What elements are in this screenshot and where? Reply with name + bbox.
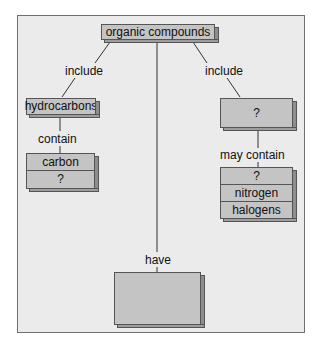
node-nitrogen: nitrogen: [221, 185, 292, 202]
box-bottom: [223, 218, 297, 222]
node-may-contain-list: ? nitrogen halogens: [220, 167, 293, 219]
node-carbon: carbon: [27, 154, 94, 171]
box-bottom: [223, 127, 297, 131]
node-hydrocarbons-contains: carbon ?: [26, 153, 95, 189]
node-hydrocarbons: hydrocarbons: [26, 98, 96, 115]
node-unknown: ?: [27, 171, 94, 188]
node-right-unknown-group: ?: [220, 98, 293, 128]
box-side: [200, 275, 205, 328]
root-node-organic-compounds: organic compounds: [101, 24, 215, 40]
box-side: [292, 170, 297, 222]
link-label-right-include: include: [204, 64, 244, 78]
link-label-may-contain: may contain: [219, 148, 286, 162]
link-label-have: have: [144, 253, 172, 267]
link-label-left-include: include: [64, 64, 104, 78]
box-side: [94, 156, 99, 192]
box-bottom: [104, 39, 219, 43]
box-bottom: [29, 114, 100, 118]
box-bottom: [117, 324, 205, 328]
node-halogens: halogens: [221, 202, 292, 218]
link-label-contain: contain: [37, 132, 78, 146]
node-unknown: ?: [221, 168, 292, 185]
box-bottom: [29, 188, 99, 192]
node-have-list-cells: [114, 272, 201, 325]
